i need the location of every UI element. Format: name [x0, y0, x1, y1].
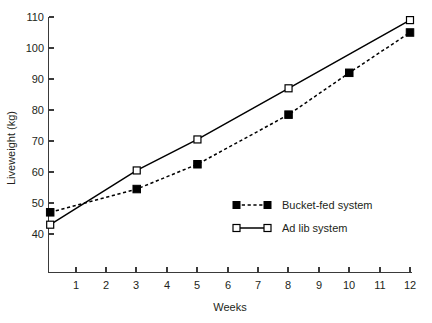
- data-point-open-square: [133, 167, 140, 174]
- y-tick-label: 70: [32, 135, 44, 147]
- y-tick-label: 90: [32, 73, 44, 85]
- legend-entry-bucket-fed-system: Bucket-fed system: [233, 199, 372, 211]
- x-tick-label: 5: [194, 279, 200, 291]
- y-axis-ticks: [49, 17, 55, 234]
- data-point-filled-square: [285, 111, 293, 119]
- x-tick-label: 1: [73, 279, 79, 291]
- data-point-open-square: [407, 17, 414, 24]
- y-tick-label: 40: [32, 228, 44, 240]
- x-tick-label: 6: [225, 279, 231, 291]
- y-axis-tick-labels: 110 100 90 80 70 60 50 40: [26, 11, 44, 240]
- data-point-filled-square: [194, 161, 202, 169]
- x-tick-label: 12: [404, 279, 416, 291]
- x-tick-label: 2: [103, 279, 109, 291]
- y-tick-label: 100: [26, 42, 44, 54]
- x-tick-label: 10: [343, 279, 355, 291]
- series-bucket-fed-system: [46, 29, 413, 216]
- x-tick-label: 8: [285, 279, 291, 291]
- chart-figure: Liveweight (kg) 110 100 90 80 70 60 50 4…: [0, 0, 432, 323]
- x-tick-label: 11: [374, 279, 385, 291]
- data-point-filled-square: [346, 69, 354, 77]
- x-axis-ticks: [76, 267, 410, 273]
- data-point-open-square: [194, 136, 201, 143]
- legend-label: Bucket-fed system: [282, 199, 372, 211]
- series-ad-lib-system: [47, 17, 414, 229]
- series-line-dashed: [50, 33, 410, 213]
- data-point-filled-square: [46, 209, 54, 217]
- y-tick-label: 60: [32, 166, 44, 178]
- x-tick-label: 9: [316, 279, 322, 291]
- x-tick-label: 4: [164, 279, 170, 291]
- legend-marker-filled-square: [264, 202, 271, 209]
- series-line-solid: [50, 20, 410, 225]
- legend-marker-filled-square: [233, 202, 240, 209]
- y-tick-label: 50: [32, 197, 44, 209]
- x-tick-label: 3: [133, 279, 139, 291]
- x-axis-title: Weeks: [213, 301, 247, 313]
- y-axis-title: Liveweight (kg): [5, 111, 17, 185]
- chart-legend: Bucket-fed system Ad lib system: [233, 199, 372, 234]
- data-point-filled-square: [133, 185, 141, 193]
- data-point-filled-square: [406, 29, 414, 37]
- legend-marker-open-square: [264, 225, 271, 232]
- data-point-open-square: [285, 85, 292, 92]
- legend-marker-open-square: [233, 225, 240, 232]
- y-tick-label: 80: [32, 104, 44, 116]
- data-point-open-square: [47, 221, 54, 228]
- series-layer: [46, 17, 413, 229]
- liveweight-line-chart: Liveweight (kg) 110 100 90 80 70 60 50 4…: [0, 0, 432, 323]
- y-tick-label: 110: [26, 11, 44, 23]
- legend-entry-ad-lib-system: Ad lib system: [233, 222, 347, 234]
- x-tick-label: 7: [255, 279, 261, 291]
- legend-label: Ad lib system: [282, 222, 347, 234]
- x-axis-tick-labels: 1 2 3 4 5 6 7 8 9 10 11 12: [73, 279, 416, 291]
